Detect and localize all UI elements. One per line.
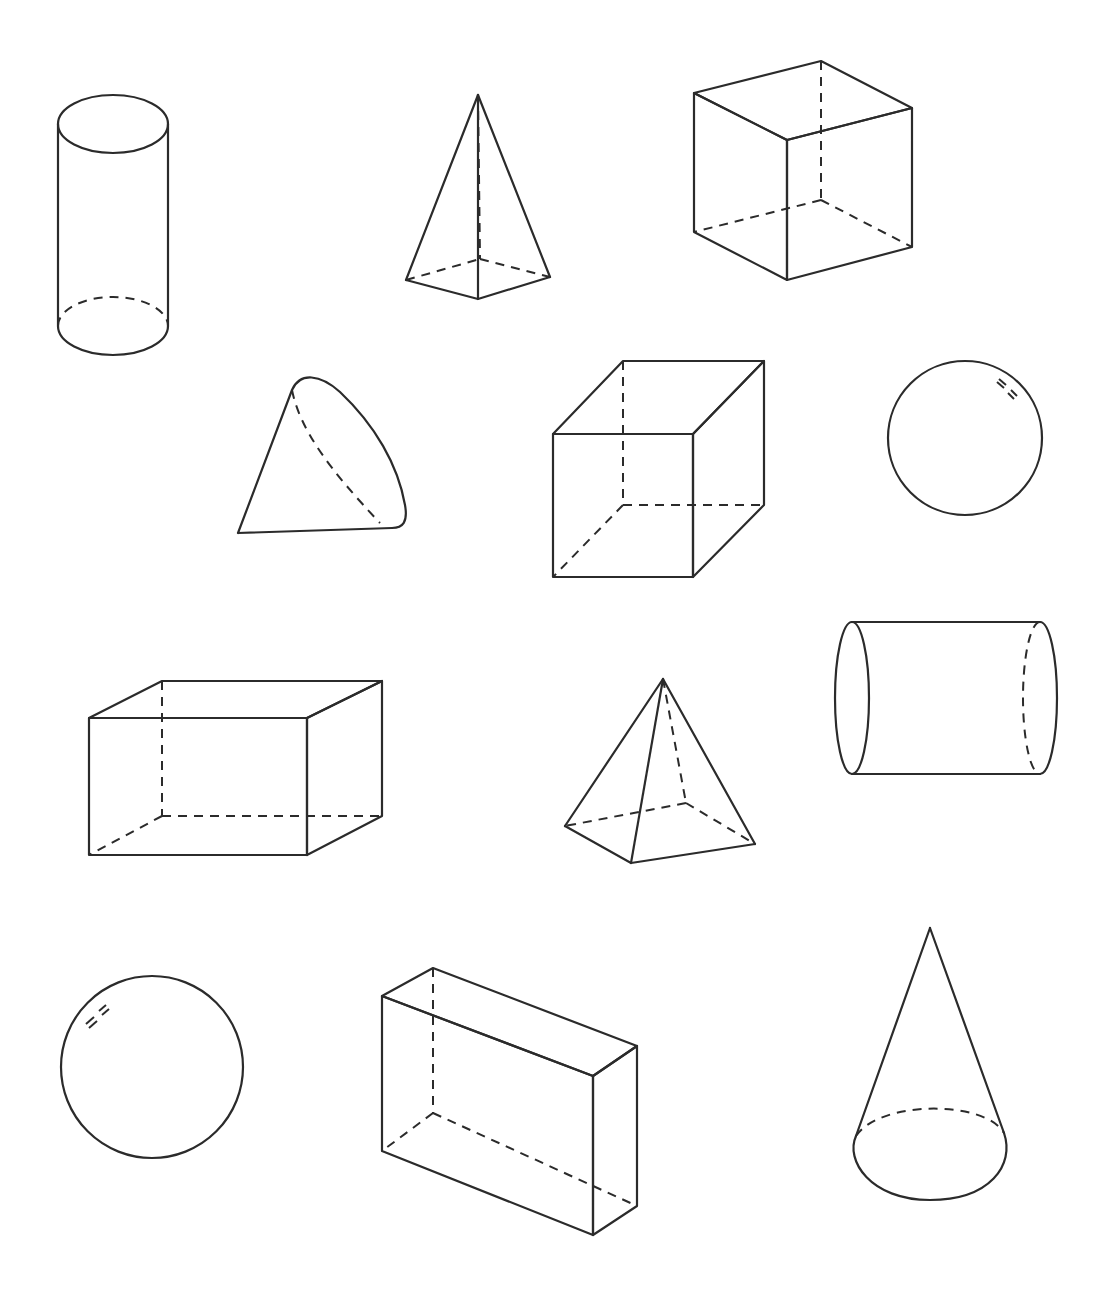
sphere-1: Sphere (888, 361, 1042, 515)
cube-1: Cube (694, 61, 912, 280)
cylinder-horizontal: Cylinder (horizontal) (835, 622, 1057, 774)
shapes-canvas: Cylinder (upright) Square pyramid Cube C… (0, 0, 1110, 1301)
cone-upright: Cone (upright) (853, 928, 1006, 1200)
cylinder-upright: Cylinder (upright) (58, 95, 168, 355)
sphere-2: Sphere (61, 976, 243, 1158)
cube-2: Cube (553, 361, 764, 577)
rectangular-prism-1: Rectangular prism (89, 681, 382, 855)
square-pyramid-2: Square pyramid (565, 679, 755, 863)
cone-tilted: Cone (tilted) (238, 377, 406, 533)
rectangular-prism-2: Rectangular prism (382, 968, 637, 1235)
square-pyramid-1: Square pyramid (406, 95, 550, 299)
